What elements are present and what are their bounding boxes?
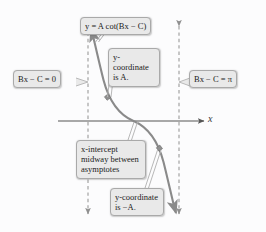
callout-right-asymptote-text: Bx − C = π xyxy=(194,74,232,84)
callout-left-asymptote: Bx − C = 0 xyxy=(13,70,61,88)
cotangent-graph-figure: x y = A cot(Bx − C) Bx − C = 0 Bx − C = … xyxy=(0,0,266,232)
callout-y-coordinate-a-line2: is A. xyxy=(113,72,155,82)
callout-y-coordinate-negative-a: y-coordinate is −A. xyxy=(110,188,164,216)
leader-line-left-asymptote xyxy=(76,78,88,86)
callout-x-intercept-line1: x-intercept xyxy=(81,144,141,154)
callout-equation-text: y = A cot(Bx − C) xyxy=(85,21,146,31)
callout-y-coordinate-negative-a-line1: y-coordinate xyxy=(115,192,159,202)
callout-y-coordinate-a-line1: y-coordinate xyxy=(113,52,155,73)
callout-x-intercept-line3: asymptotes xyxy=(81,164,141,174)
callout-right-asymptote: Bx − C = π xyxy=(189,70,237,88)
callout-left-asymptote-text: Bx − C = 0 xyxy=(18,74,56,84)
callout-y-coordinate-negative-a-line2: is −A. xyxy=(115,202,159,212)
leader-line-ycoord-neg-a xyxy=(145,150,161,188)
callout-equation: y = A cot(Bx − C) xyxy=(80,17,151,35)
callout-x-intercept: x-intercept midway between asymptotes xyxy=(76,140,146,179)
callout-y-coordinate-a: y-coordinate is A. xyxy=(108,48,160,87)
leader-line-xintercept xyxy=(128,122,138,140)
x-axis-label: x xyxy=(208,113,212,124)
callout-x-intercept-line2: midway between xyxy=(81,154,141,164)
